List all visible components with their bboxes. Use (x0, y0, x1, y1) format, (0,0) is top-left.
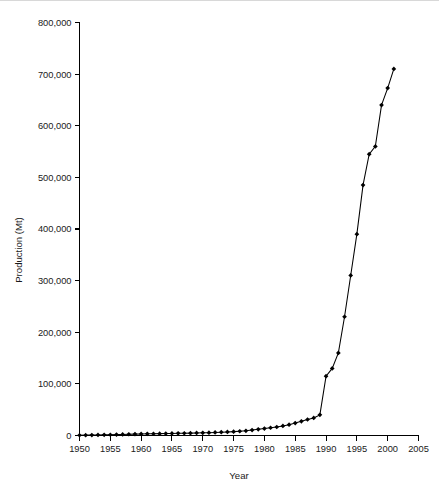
y-tick-label: 200,000 (38, 328, 72, 338)
data-point-marker (299, 419, 304, 424)
data-point-marker (274, 425, 279, 430)
data-point-marker (287, 422, 292, 427)
data-point-marker (244, 429, 249, 434)
data-point-marker (385, 86, 390, 91)
data-point-marker (114, 432, 119, 437)
data-point-marker (318, 413, 323, 418)
data-point-marker (188, 431, 193, 436)
data-point-marker (305, 417, 310, 422)
data-point-marker (231, 429, 236, 434)
y-tick-label: 300,000 (38, 276, 72, 286)
data-point-marker (268, 425, 273, 430)
production-line-chart: 0100,000200,000300,000400,000500,000600,… (0, 0, 439, 492)
x-tick-label: 1960 (131, 444, 152, 454)
data-point-marker (89, 433, 94, 438)
y-axis-tick-labels: 0100,000200,000300,000400,000500,000600,… (38, 18, 72, 441)
data-point-marker (250, 428, 255, 433)
data-point-marker (102, 432, 107, 437)
x-tick-label: 1980 (254, 444, 275, 454)
data-point-marker (311, 416, 316, 421)
y-tick-label: 100,000 (38, 379, 72, 389)
data-point-marker (225, 430, 230, 435)
data-point-marker (379, 103, 384, 108)
x-tick-label: 1970 (192, 444, 213, 454)
data-point-marker (194, 431, 199, 436)
data-point-marker (237, 429, 242, 434)
data-point-marker (348, 273, 353, 278)
y-tick-label: 600,000 (38, 121, 72, 131)
y-tick-label: 0 (66, 431, 71, 441)
data-point-marker (219, 430, 224, 435)
y-tick-label: 500,000 (38, 173, 72, 183)
x-tick-label: 2000 (377, 444, 398, 454)
y-axis-title: Production (Mt) (13, 217, 24, 283)
y-tick-label: 400,000 (38, 224, 72, 234)
data-point-marker (391, 67, 396, 72)
x-tick-label: 1990 (316, 444, 337, 454)
x-tick-label: 1985 (285, 444, 306, 454)
data-point-marker (120, 432, 125, 437)
data-point-marker (108, 432, 113, 437)
data-point-marker (281, 424, 286, 429)
x-tick-label: 1955 (100, 444, 121, 454)
x-tick-label: 1965 (162, 444, 183, 454)
data-point-marker (213, 430, 218, 435)
x-axis-tick-labels: 1950195519601965197019751980198519901995… (69, 444, 429, 454)
chart-axes (75, 23, 419, 441)
x-tick-label: 2005 (408, 444, 429, 454)
x-tick-label: 1995 (347, 444, 368, 454)
data-point-marker (262, 426, 267, 431)
data-point-marker (182, 431, 187, 436)
y-tick-label: 800,000 (38, 18, 72, 28)
data-point-marker (355, 232, 360, 237)
x-tick-label: 1975 (223, 444, 244, 454)
data-point-marker (77, 433, 82, 438)
data-point-marker (293, 421, 298, 426)
x-axis-title: Year (229, 470, 249, 481)
data-point-marker (336, 351, 341, 356)
data-point-marker (256, 427, 261, 432)
data-series-production (77, 67, 396, 438)
data-point-marker (96, 433, 101, 438)
data-point-marker (200, 430, 205, 435)
x-tick-label: 1950 (69, 444, 90, 454)
data-point-marker (342, 314, 347, 319)
data-point-marker (83, 433, 88, 438)
y-tick-label: 700,000 (38, 70, 72, 80)
data-point-marker (207, 430, 212, 435)
data-point-marker (361, 183, 366, 188)
figure-canvas: 0100,000200,000300,000400,000500,000600,… (0, 0, 439, 492)
